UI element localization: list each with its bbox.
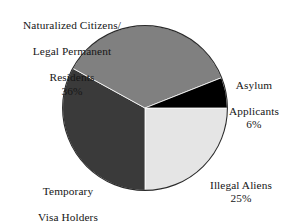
slice-label-line3: Residents (50, 71, 95, 83)
slice-label-line1: Naturalized Citizens/ (23, 19, 121, 31)
slice-label-temporary-visa-holders: Temporary Visa Holders 33% (14, 172, 122, 222)
slice-percent-asylum-applicants: 6% (216, 118, 292, 131)
slice-percent-illegal-aliens: 25% (192, 192, 290, 205)
slice-label-line1: Temporary (43, 185, 93, 197)
slice-label-asylum-applicants: Asylum Applicants 6% (216, 66, 292, 145)
slice-label-illegal-aliens: Illegal Aliens 25% (192, 166, 290, 218)
pie-chart-figure: Naturalized Citizens/ Legal Permanent Re… (0, 0, 293, 222)
slice-label-line2: Applicants (229, 105, 279, 117)
slice-label-line2: Visa Holders (38, 211, 98, 222)
slice-label-line1: Asylum (236, 79, 272, 91)
slice-label-line1: Illegal Aliens (210, 179, 272, 191)
slice-label-line2: Legal Permanent (33, 45, 111, 57)
slice-percent-naturalized-citizens: 36% (2, 85, 142, 98)
slice-label-naturalized-citizens: Naturalized Citizens/ Legal Permanent Re… (2, 6, 142, 111)
